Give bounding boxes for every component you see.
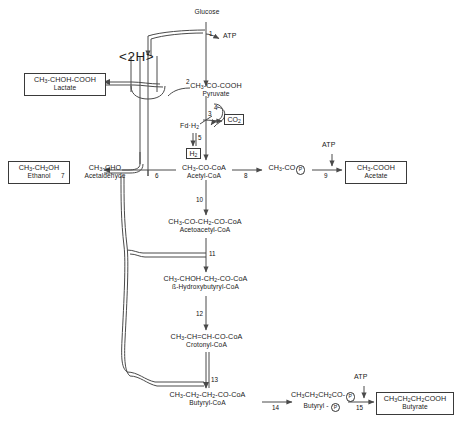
node-hydroxybutyryl-coa: CH3-CHOH-CH2-CO-CoA ß-Hydroxybutyryl-CoA [148, 275, 263, 291]
step-number-14: 14 [272, 404, 279, 411]
glucose-label: Glucose [185, 8, 229, 16]
step-number-11: 11 [209, 250, 216, 257]
step-number-13: 13 [211, 376, 218, 383]
step-number-3: 3 [208, 110, 212, 117]
step-number-6: 6 [155, 172, 159, 179]
step-number-8: 8 [244, 172, 248, 179]
butyrate-label: Butyrate [381, 403, 449, 411]
atp-glycolysis-label: ATP [223, 32, 237, 39]
node-acetoacetyl-coa: CH3-CO-CH2-CO-CoA Acetoacetyl-CoA [155, 218, 255, 234]
atp-acetate-label: ATP [322, 141, 336, 148]
step-number-1: 1 [209, 30, 213, 37]
acetyl-phosphate-formula: CH3-COP [260, 164, 314, 175]
node-glucose: Glucose [185, 8, 229, 16]
atp-butyrate-label: ATP [354, 373, 368, 380]
hydrogen-carrier-label: <2H> [119, 49, 154, 64]
lactate-label: Lactate [29, 84, 101, 92]
node-acetyl-coa: CH3-CO-CoA Acetyl-CoA [172, 164, 236, 180]
ethanol-label: Ethanol [13, 172, 65, 180]
step-number-4: 4 [214, 104, 218, 111]
acetyl-coa-label: Acetyl-CoA [172, 172, 236, 180]
hydroxybutyryl-coa-label: ß-Hydroxybutyryl-CoA [148, 283, 263, 291]
step-number-5: 5 [198, 134, 202, 141]
hydrogen-gas-box: H2 [186, 148, 201, 159]
acetoacetyl-coa-formula: CH3-CO-CH2-CO-CoA [155, 218, 255, 226]
node-pyruvate: CH3-CO-COOH Pyruvate [180, 82, 252, 98]
pyruvate-formula: CH3-CO-COOH [180, 82, 252, 90]
node-butyryl-coa: CH3-CH2-CH2-CO-CoA Butyryl-CoA [155, 391, 260, 407]
node-crotonyl-coa: CH3-CH=CH-CO-CoA Crotonyl-CoA [159, 333, 254, 349]
step-number-2: 2 [186, 78, 190, 85]
pathway-diagram: Glucose ATP <2H> CH3-CO-COOH Pyruvate CH… [0, 0, 457, 434]
carbon-dioxide-box: CO2 [224, 114, 244, 125]
node-acetyl-phosphate: CH3-COP [260, 164, 314, 175]
butyrate-formula: CH3CH2CH2COOH [381, 395, 449, 403]
node-acetaldehyde: CH3-CHO Acetaldehyde [76, 164, 134, 180]
node-butyrate: CH3CH2CH2COOH Butyrate [376, 392, 454, 415]
acetyl-coa-formula: CH3-CO-CoA [172, 164, 236, 172]
step-number-12: 12 [196, 310, 203, 317]
butyryl-coa-formula: CH3-CH2-CH2-CO-CoA [155, 391, 260, 399]
step-number-15: 15 [356, 404, 363, 411]
step-number-9: 9 [324, 172, 328, 179]
butyryl-phosphate-label: Butyryl - P [291, 402, 353, 413]
node-butyryl-phosphate: CH3CH2CH2CO-P Butyryl - P [291, 391, 353, 412]
lactate-formula: CH3-CHOH-COOH [29, 76, 101, 84]
ethanol-formula: CH3-CH2OH [13, 164, 65, 172]
ferredoxin-label: Fd·H2 [180, 122, 199, 130]
hydroxybutyryl-coa-formula: CH3-CHOH-CH2-CO-CoA [148, 275, 263, 283]
acetoacetyl-coa-label: Acetoacetyl-CoA [155, 226, 255, 234]
node-acetate: CH3-COOH Acetate [345, 161, 407, 184]
butyryl-coa-label: Butyryl-CoA [155, 399, 260, 407]
acetate-label: Acetate [350, 172, 402, 180]
acetate-formula: CH3-COOH [350, 164, 402, 172]
step-number-7: 7 [61, 172, 65, 179]
crotonyl-coa-formula: CH3-CH=CH-CO-CoA [159, 333, 254, 341]
step-number-10: 10 [196, 196, 203, 203]
crotonyl-coa-label: Crotonyl-CoA [159, 341, 254, 349]
acetaldehyde-formula: CH3-CHO [76, 164, 134, 172]
butyryl-phosphate-formula: CH3CH2CH2CO-P [291, 391, 353, 402]
acetaldehyde-label: Acetaldehyde [76, 172, 134, 180]
pyruvate-label: Pyruvate [180, 90, 252, 98]
node-lactate: CH3-CHOH-COOH Lactate [24, 73, 106, 96]
